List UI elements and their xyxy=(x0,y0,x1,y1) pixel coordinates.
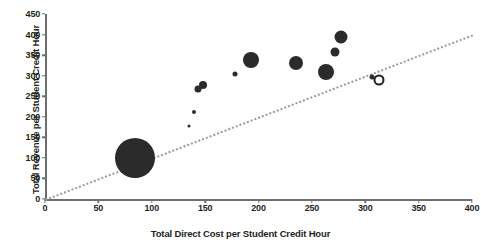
y-tick-mark-300 xyxy=(42,75,46,76)
data-point xyxy=(289,56,303,70)
data-point xyxy=(199,81,207,89)
x-tick-mark-0 xyxy=(44,199,45,203)
x-tick-label-200: 200 xyxy=(239,203,279,213)
plot-area: 050100150200250300350400450 050100150200… xyxy=(45,14,472,199)
y-tick-mark-400 xyxy=(42,34,46,35)
x-tick-mark-400 xyxy=(471,199,472,203)
x-tick-mark-250 xyxy=(311,199,312,203)
x-tick-mark-50 xyxy=(98,199,99,203)
x-tick-label-400: 400 xyxy=(452,203,481,213)
data-point xyxy=(233,71,238,76)
x-tick-mark-150 xyxy=(204,199,205,203)
y-tick-mark-150 xyxy=(42,137,46,138)
y-tick-label-200: 200 xyxy=(11,112,45,122)
y-tick-label-150: 150 xyxy=(11,132,45,142)
x-tick-label-50: 50 xyxy=(78,203,118,213)
y-tick-mark-100 xyxy=(42,157,46,158)
y-tick-mark-450 xyxy=(42,13,46,14)
x-tick-label-350: 350 xyxy=(399,203,439,213)
scatter-chart: Total Revenue per Student Credit Hour To… xyxy=(0,0,481,244)
x-tick-mark-300 xyxy=(365,199,366,203)
y-tick-label-50: 50 xyxy=(11,173,45,183)
x-tick-mark-100 xyxy=(151,199,152,203)
data-point xyxy=(334,30,347,43)
y-axis-line xyxy=(45,14,47,199)
data-point xyxy=(243,52,259,68)
data-point xyxy=(135,142,139,146)
x-axis-title: Total Direct Cost per Student Credit Hou… xyxy=(0,228,481,239)
data-point xyxy=(192,110,196,114)
y-tick-mark-50 xyxy=(42,178,46,179)
y-tick-label-100: 100 xyxy=(11,153,45,163)
x-tick-label-100: 100 xyxy=(132,203,172,213)
x-tick-mark-200 xyxy=(258,199,259,203)
x-tick-label-0: 0 xyxy=(25,203,65,213)
y-tick-label-400: 400 xyxy=(11,30,45,40)
data-point xyxy=(318,64,334,80)
y-tick-label-350: 350 xyxy=(11,50,45,60)
x-tick-label-250: 250 xyxy=(292,203,332,213)
x-tick-label-150: 150 xyxy=(185,203,225,213)
data-point xyxy=(188,124,191,127)
y-tick-label-250: 250 xyxy=(11,91,45,101)
y-tick-label-300: 300 xyxy=(11,71,45,81)
y-tick-label-450: 450 xyxy=(11,9,45,19)
data-point xyxy=(331,47,340,56)
y-tick-mark-250 xyxy=(42,96,46,97)
y-tick-mark-200 xyxy=(42,116,46,117)
y-tick-mark-350 xyxy=(42,54,46,55)
x-tick-label-300: 300 xyxy=(345,203,385,213)
x-tick-mark-350 xyxy=(418,199,419,203)
data-point xyxy=(374,74,385,85)
